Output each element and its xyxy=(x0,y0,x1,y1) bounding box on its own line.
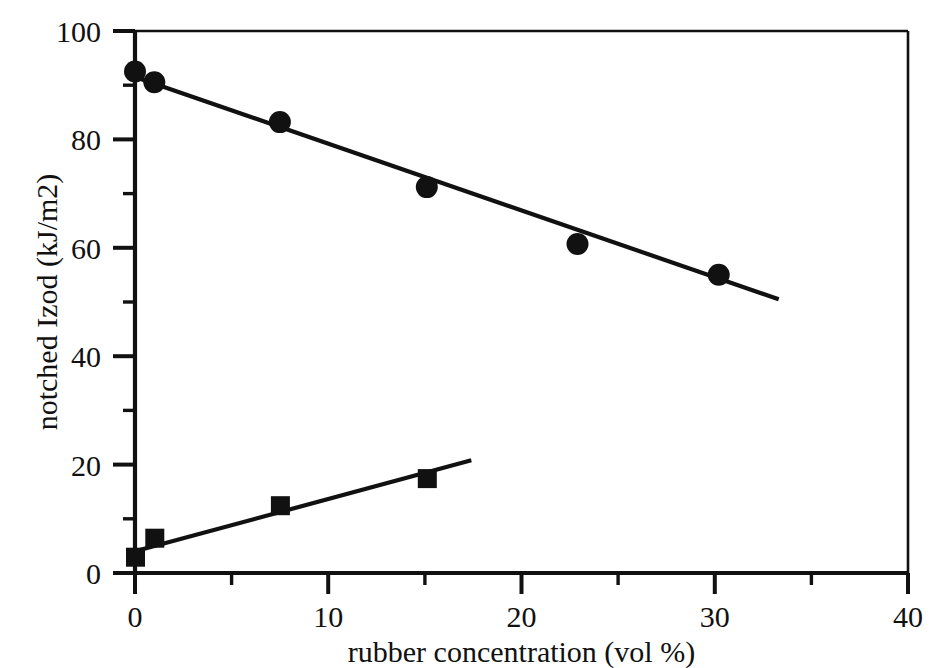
x-axis-tick-labels: 0 10 20 30 40 xyxy=(128,600,924,633)
data-point-circle-3 xyxy=(269,111,291,133)
data-point-circle-2 xyxy=(143,71,165,93)
y-axis-title: notched Izod (kJ/m2) xyxy=(30,174,64,431)
y-tick-label-80: 80 xyxy=(71,123,101,156)
y-tick-label-20: 20 xyxy=(71,449,101,482)
x-tick-label-20: 20 xyxy=(507,600,537,633)
y-tick-label-60: 60 xyxy=(71,232,101,265)
data-point-circle-5 xyxy=(567,233,589,255)
y-tick-label-0: 0 xyxy=(86,557,101,590)
plot-frame xyxy=(135,31,908,573)
trend-line-circles xyxy=(135,77,779,299)
y-tick-label-40: 40 xyxy=(71,340,101,373)
scatter-plot-svg: 0 20 40 60 80 100 0 10 20 30 40 rubber c… xyxy=(0,0,935,668)
data-point-circle-6 xyxy=(708,264,730,286)
x-tick-label-0: 0 xyxy=(128,600,143,633)
series-circles xyxy=(124,61,779,300)
x-tick-label-10: 10 xyxy=(313,600,343,633)
data-point-square-3 xyxy=(271,496,290,515)
data-point-square-2 xyxy=(145,529,164,548)
data-point-circle-1 xyxy=(124,61,146,83)
x-tick-label-40: 40 xyxy=(893,600,923,633)
x-axis-ticks xyxy=(135,573,908,594)
x-axis-title: rubber concentration (vol %) xyxy=(348,635,695,668)
data-point-square-1 xyxy=(126,548,145,567)
chart-figure: 0 20 40 60 80 100 0 10 20 30 40 rubber c… xyxy=(0,0,935,668)
x-tick-label-30: 30 xyxy=(700,600,730,633)
data-point-square-4 xyxy=(418,469,437,488)
series-squares xyxy=(126,460,471,566)
data-point-circle-4 xyxy=(416,176,438,198)
y-tick-label-100: 100 xyxy=(56,15,101,48)
y-axis-ticks xyxy=(113,31,135,573)
